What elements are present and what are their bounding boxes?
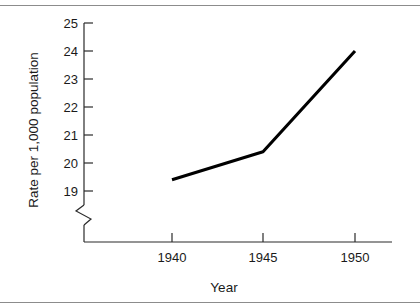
line-chart: 25 24 23 22 21 20 19 1940 1945 1950 Year… [0,0,420,308]
y-tick-label-22: 22 [64,100,78,115]
y-tick-label-20: 20 [64,156,78,171]
data-series-line [172,51,355,180]
y-tick-label-23: 23 [64,72,78,87]
x-tick-label-1945: 1945 [249,250,278,265]
y-tick-label-24: 24 [64,44,78,59]
y-tick-label-21: 21 [64,128,78,143]
y-axis-break-icon [76,205,91,225]
figure-root: 25 24 23 22 21 20 19 1940 1945 1950 Year… [0,0,420,308]
y-tick-label-25: 25 [64,16,78,31]
y-axis-title: Rate per 1,000 population [26,52,41,207]
x-tick-label-1940: 1940 [158,250,187,265]
x-axis-title: Year [210,280,238,295]
y-tick-label-19: 19 [64,184,78,199]
x-tick-label-1950: 1950 [341,250,370,265]
